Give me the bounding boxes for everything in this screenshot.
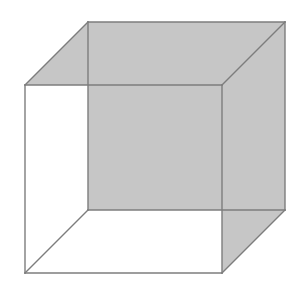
- cube-figure: [0, 0, 305, 286]
- cube-drawing: [0, 0, 305, 286]
